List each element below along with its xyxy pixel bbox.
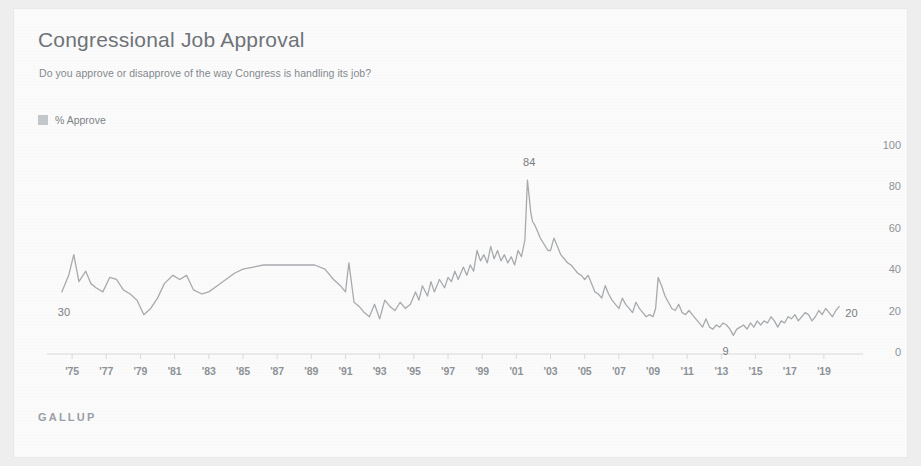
- x-axis-tick-label: '99: [466, 365, 498, 377]
- y-axis-tick-label: 40: [867, 263, 901, 275]
- data-label-first-point: 30: [58, 306, 70, 318]
- x-axis-tick-label: '09: [637, 365, 669, 377]
- x-axis-tick-label: '85: [227, 365, 259, 377]
- x-axis-tick-label: '77: [90, 365, 122, 377]
- x-axis-tick-label: '01: [500, 365, 532, 377]
- x-axis-tick-label: '05: [569, 365, 601, 377]
- chart-card: Congressional Job Approval Do you approv…: [14, 9, 907, 457]
- x-axis-tick-label: '11: [671, 365, 703, 377]
- data-label-trough: 9: [723, 345, 729, 357]
- gallup-logo: GALLUP: [38, 411, 96, 423]
- x-axis-tick-label: '17: [774, 365, 806, 377]
- y-axis-tick-label: 0: [867, 346, 901, 358]
- x-axis-tick-label: '75: [56, 365, 88, 377]
- chart-legend: % Approve: [38, 114, 106, 126]
- x-axis-tick-label: '19: [808, 365, 840, 377]
- x-axis-tick-label: '15: [740, 365, 772, 377]
- y-axis-tick-label: 20: [867, 305, 901, 317]
- x-axis-tick-label: '79: [124, 365, 156, 377]
- series-line-0: [62, 180, 839, 335]
- x-axis-tick-label: '93: [364, 365, 396, 377]
- x-axis-tick-label: '81: [159, 365, 191, 377]
- y-axis-tick-label: 60: [867, 222, 901, 234]
- x-axis-tick-label: '07: [603, 365, 635, 377]
- chart-title: Congressional Job Approval: [38, 28, 305, 52]
- x-axis-tick-label: '97: [432, 365, 464, 377]
- x-axis-tick-label: '03: [535, 365, 567, 377]
- x-axis-tick-label: '83: [193, 365, 225, 377]
- x-axis-tick-label: '13: [705, 365, 737, 377]
- chart-subtitle: Do you approve or disapprove of the way …: [39, 67, 371, 79]
- legend-label-approve: % Approve: [55, 114, 106, 126]
- chart-page: Congressional Job Approval Do you approv…: [0, 0, 921, 466]
- x-axis-tick-label: '89: [295, 365, 327, 377]
- data-label-peak: 84: [523, 156, 535, 168]
- x-axis-tick-label: '91: [329, 365, 361, 377]
- legend-swatch-approve: [38, 115, 48, 125]
- y-axis-tick-label: 80: [867, 180, 901, 192]
- data-label-last-point: 20: [845, 307, 857, 319]
- y-axis-tick-label: 100: [867, 139, 901, 151]
- x-axis-tick-label: '95: [398, 365, 430, 377]
- x-axis-tick-label: '87: [261, 365, 293, 377]
